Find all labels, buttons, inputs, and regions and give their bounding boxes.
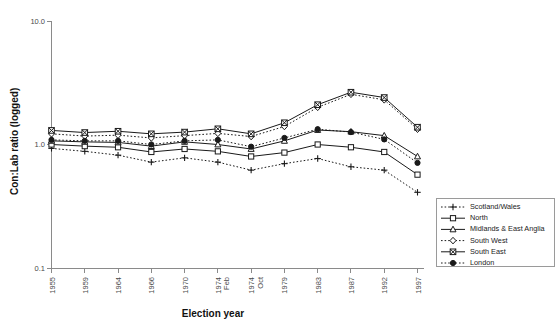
data-point-marker bbox=[315, 142, 320, 147]
x-tick-label: 1964 bbox=[114, 277, 123, 294]
data-point-marker bbox=[249, 144, 254, 149]
data-point-marker bbox=[282, 120, 288, 126]
data-point-marker bbox=[115, 152, 121, 158]
x-tick-group: 195519591964196619701974Feb1974Oct197919… bbox=[48, 269, 423, 294]
y-axis-title: Con:Lab ratio (logged) bbox=[9, 88, 20, 195]
legend-label: South East bbox=[470, 247, 506, 256]
x-tick-label: 1955 bbox=[48, 277, 57, 294]
data-point-marker bbox=[149, 142, 154, 147]
legend-label: Scotland/Wales bbox=[470, 202, 521, 211]
chart-svg: 10.01.00.1 Con:Lab ratio (logged) 195519… bbox=[0, 0, 558, 329]
series-line bbox=[52, 92, 418, 134]
x-tick-label: 1970 bbox=[181, 277, 190, 294]
series-scotland-wales bbox=[48, 145, 420, 195]
legend-label: South West bbox=[470, 236, 508, 245]
y-tick-label: 1.0 bbox=[35, 140, 45, 149]
data-point-marker bbox=[348, 89, 354, 95]
legend-label: Midlands & East Anglia bbox=[470, 224, 546, 233]
data-point-marker bbox=[415, 124, 421, 130]
data-point-marker bbox=[215, 137, 220, 142]
data-point-marker bbox=[49, 128, 55, 134]
series-line bbox=[52, 129, 418, 163]
data-point-marker bbox=[281, 160, 287, 166]
data-point-marker bbox=[348, 145, 353, 150]
data-point-marker bbox=[215, 159, 221, 165]
x-tick-label: 1992 bbox=[380, 277, 389, 294]
x-tick-label: 1987 bbox=[347, 277, 356, 294]
data-point-marker bbox=[382, 149, 387, 154]
data-point-marker bbox=[82, 138, 87, 143]
x-tick-label: 1997 bbox=[414, 277, 423, 294]
data-point-marker bbox=[182, 146, 187, 151]
legend-label: North bbox=[470, 213, 488, 222]
x-tick-label: 1959 bbox=[81, 277, 90, 294]
series-south-east bbox=[49, 89, 421, 136]
data-point-marker bbox=[450, 260, 455, 265]
data-point-marker bbox=[182, 129, 188, 135]
x-tick-label: 1966 bbox=[147, 277, 156, 294]
chart-figure: 10.01.00.1 Con:Lab ratio (logged) 195519… bbox=[0, 0, 558, 329]
data-point-marker bbox=[382, 137, 387, 142]
data-point-marker bbox=[415, 153, 421, 159]
data-point-marker bbox=[282, 150, 287, 155]
data-point-marker bbox=[315, 127, 320, 132]
x-axis: 195519591964196619701974Feb1974Oct197919… bbox=[48, 269, 425, 320]
series-line bbox=[52, 148, 418, 192]
data-point-marker bbox=[182, 138, 187, 143]
data-point-marker bbox=[115, 128, 121, 134]
data-point-marker bbox=[381, 95, 387, 101]
legend: Scotland/WalesNorthMidlands & East Angli… bbox=[437, 199, 555, 267]
data-point-marker bbox=[215, 149, 220, 154]
data-point-marker bbox=[414, 189, 420, 195]
legend-label: London bbox=[470, 258, 494, 267]
data-point-marker bbox=[49, 137, 54, 142]
data-point-marker bbox=[148, 159, 154, 165]
data-point-marker bbox=[181, 155, 187, 161]
y-tick-group: 10.01.00.1 bbox=[30, 17, 51, 273]
data-series-group bbox=[48, 89, 420, 195]
data-point-marker bbox=[248, 167, 254, 173]
x-axis-title: Election year bbox=[182, 308, 244, 319]
data-point-marker bbox=[348, 130, 353, 135]
data-point-marker bbox=[149, 149, 154, 154]
data-point-marker bbox=[415, 172, 420, 177]
data-point-marker bbox=[282, 135, 287, 140]
x-tick-label: Oct bbox=[256, 276, 265, 289]
x-tick-label: Feb bbox=[222, 277, 231, 290]
data-point-marker bbox=[249, 154, 254, 159]
data-point-marker bbox=[215, 126, 221, 132]
y-tick-label: 0.1 bbox=[35, 264, 45, 273]
data-point-marker bbox=[115, 138, 120, 143]
data-point-marker bbox=[82, 130, 88, 136]
y-tick-label: 10.0 bbox=[30, 17, 45, 26]
x-tick-label: 1979 bbox=[280, 277, 289, 294]
data-point-marker bbox=[348, 164, 354, 170]
data-point-marker bbox=[149, 131, 155, 137]
x-tick-label: 1983 bbox=[314, 277, 323, 294]
y-axis: 10.01.00.1 Con:Lab ratio (logged) bbox=[9, 17, 52, 273]
data-point-marker bbox=[450, 249, 456, 255]
data-point-marker bbox=[315, 102, 321, 108]
series-london bbox=[49, 127, 420, 166]
data-point-marker bbox=[115, 145, 120, 150]
data-point-marker bbox=[248, 131, 254, 137]
series-line bbox=[52, 145, 418, 175]
data-point-marker bbox=[415, 160, 420, 165]
data-point-marker bbox=[450, 216, 455, 221]
data-point-marker bbox=[314, 155, 320, 161]
data-point-marker bbox=[381, 167, 387, 173]
